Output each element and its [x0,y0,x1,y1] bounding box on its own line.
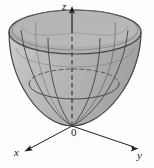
origin-label: 0 [71,127,77,138]
x-axis-arrowhead [25,145,33,151]
y-axis-label: y [137,150,142,161]
x-axis-label: x [14,147,19,158]
z-axis-label: z [62,1,66,12]
x-axis-line [29,126,72,149]
paraboloid-figure: z x y 0 [0,0,154,168]
y-axis-line [72,126,134,147]
paraboloid-diagram-svg [0,0,154,168]
